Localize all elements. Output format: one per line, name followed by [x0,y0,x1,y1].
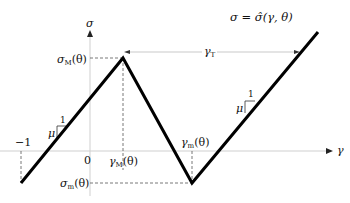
neg-one-label: −1 [15,137,31,148]
slope-right-mu: μ [236,103,243,114]
origin-label: 0 [84,155,91,166]
equation-label: σ = σ̂(γ, θ) [230,12,293,24]
gamma-T-label: γT [202,46,217,59]
y-axis-arrow-icon [87,30,93,37]
x-axis-arrow-icon [326,148,333,154]
diagram-canvas [0,0,350,203]
gamma-M-label: γM(θ) [109,156,138,169]
gamma-m-label: γm(θ) [181,137,209,150]
sigma-M-label: σM(θ) [57,54,87,67]
sigma-m-label: σm(θ) [60,178,89,191]
x-axis-label: γ [337,145,344,156]
slope-left-mu: μ [48,128,55,139]
slope-left-one: 1 [60,116,66,125]
gamma-T-left-arrow-icon [124,50,130,54]
slope-right-one: 1 [248,90,254,99]
y-axis-label: σ [86,18,94,29]
stress-strain-diagram: σ = σ̂(γ, θ) σ γ 0 −1 σM(θ) σm(θ) γM(θ) … [0,0,350,203]
